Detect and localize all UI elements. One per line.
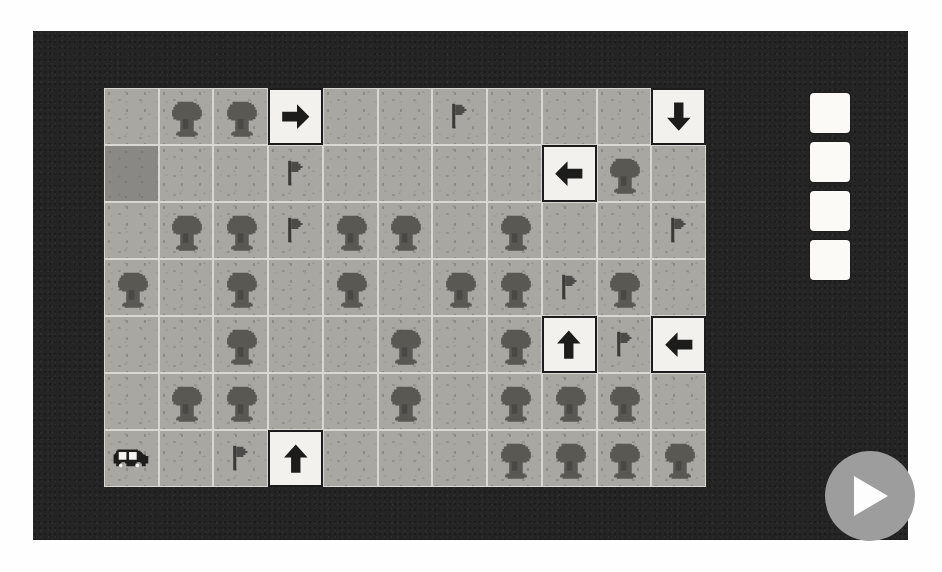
board-cell-1-0[interactable] [104,145,159,202]
board-cell-6-8[interactable] [542,430,597,487]
tree-icon [164,379,207,424]
board-cell-3-9[interactable] [597,259,652,316]
board-cell-5-6[interactable] [432,373,487,430]
board-cell-3-10[interactable] [651,259,706,316]
board-cell-6-0[interactable] [104,430,159,487]
board-cell-1-7[interactable] [487,145,542,202]
flag-icon [443,99,476,133]
board-cell-1-5[interactable] [378,145,433,202]
board-cell-1-4[interactable] [323,145,378,202]
board-cell-6-6[interactable] [432,430,487,487]
tree-icon [329,265,372,310]
board-cell-4-1[interactable] [159,316,214,373]
board-cell-5-9[interactable] [597,373,652,430]
board-cell-3-7[interactable] [487,259,542,316]
board-cell-6-9[interactable] [597,430,652,487]
board-cell-3-5[interactable] [378,259,433,316]
puzzle-board[interactable] [104,88,706,487]
board-cell-3-1[interactable] [159,259,214,316]
board-cell-2-5[interactable] [378,202,433,259]
board-cell-2-6[interactable] [432,202,487,259]
board-cell-2-9[interactable] [597,202,652,259]
tree-icon [383,208,426,253]
board-cell-4-0[interactable] [104,316,159,373]
board-cell-5-4[interactable] [323,373,378,430]
tree-icon [219,265,262,310]
board-cell-0-5[interactable] [378,88,433,145]
board-cell-5-8[interactable] [542,373,597,430]
board-cell-3-0[interactable] [104,259,159,316]
board-cell-0-10[interactable] [651,88,706,145]
board-cell-5-10[interactable] [651,373,706,430]
board-cell-4-6[interactable] [432,316,487,373]
board-cell-6-4[interactable] [323,430,378,487]
tree-icon [493,265,536,310]
board-cell-6-3[interactable] [268,430,323,487]
board-cell-0-6[interactable] [432,88,487,145]
board-cell-1-10[interactable] [651,145,706,202]
tree-icon [164,94,207,139]
board-cell-6-5[interactable] [378,430,433,487]
board-cell-1-1[interactable] [159,145,214,202]
board-cell-6-2[interactable] [213,430,268,487]
board-cell-2-7[interactable] [487,202,542,259]
board-cell-2-2[interactable] [213,202,268,259]
board-cell-6-1[interactable] [159,430,214,487]
board-cell-0-1[interactable] [159,88,214,145]
board-cell-3-8[interactable] [542,259,597,316]
command-slot-3[interactable] [810,191,850,231]
board-cell-0-3[interactable] [268,88,323,145]
board-cell-4-5[interactable] [378,316,433,373]
tree-icon [493,436,536,481]
tree-icon [383,379,426,424]
board-cell-4-4[interactable] [323,316,378,373]
board-cell-0-4[interactable] [323,88,378,145]
command-slot-1[interactable] [810,93,850,133]
board-cell-2-1[interactable] [159,202,214,259]
board-cell-2-3[interactable] [268,202,323,259]
command-slot-4[interactable] [810,240,850,280]
board-cell-2-0[interactable] [104,202,159,259]
board-cell-6-10[interactable] [651,430,706,487]
board-cell-5-0[interactable] [104,373,159,430]
board-cell-5-3[interactable] [268,373,323,430]
board-cell-1-6[interactable] [432,145,487,202]
tree-icon [164,208,207,253]
game-frame [33,31,908,540]
play-button[interactable] [825,451,915,541]
board-cell-5-2[interactable] [213,373,268,430]
tree-icon [219,379,262,424]
board-cell-0-7[interactable] [487,88,542,145]
tree-icon [493,379,536,424]
board-cell-1-3[interactable] [268,145,323,202]
board-cell-3-6[interactable] [432,259,487,316]
board-cell-6-7[interactable] [487,430,542,487]
board-cell-2-10[interactable] [651,202,706,259]
tree-icon [383,322,426,367]
board-cell-3-4[interactable] [323,259,378,316]
board-cell-4-10[interactable] [651,316,706,373]
board-cell-0-2[interactable] [213,88,268,145]
board-cell-4-7[interactable] [487,316,542,373]
board-cell-4-2[interactable] [213,316,268,373]
board-cell-3-3[interactable] [268,259,323,316]
arrow-up-icon [550,325,588,364]
board-cell-4-9[interactable] [597,316,652,373]
board-cell-3-2[interactable] [213,259,268,316]
board-cell-0-9[interactable] [597,88,652,145]
command-slot-tray [810,93,850,280]
board-cell-1-2[interactable] [213,145,268,202]
board-cell-5-7[interactable] [487,373,542,430]
board-cell-0-8[interactable] [542,88,597,145]
board-cell-1-9[interactable] [597,145,652,202]
board-cell-0-0[interactable] [104,88,159,145]
board-cell-2-8[interactable] [542,202,597,259]
board-cell-5-1[interactable] [159,373,214,430]
flag-icon [224,441,257,475]
board-cell-2-4[interactable] [323,202,378,259]
board-cell-4-8[interactable] [542,316,597,373]
board-cell-4-3[interactable] [268,316,323,373]
command-slot-2[interactable] [810,142,850,182]
board-cell-5-5[interactable] [378,373,433,430]
board-cell-1-8[interactable] [542,145,597,202]
